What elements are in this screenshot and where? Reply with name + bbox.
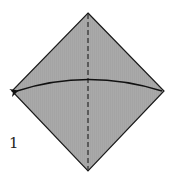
- paper-square: [12, 13, 164, 171]
- step-number: 1: [9, 136, 19, 151]
- origami-diagram: [0, 0, 177, 181]
